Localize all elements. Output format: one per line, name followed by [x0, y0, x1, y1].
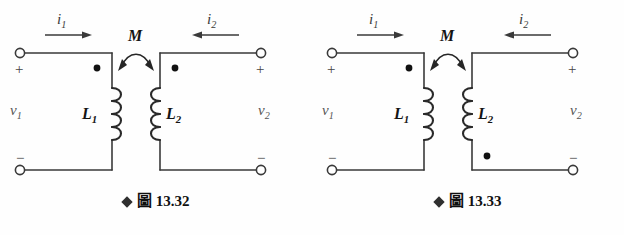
terminal-bottom-left [327, 165, 336, 174]
label-i2: i2 [519, 12, 528, 30]
diamond-bullet-icon [433, 196, 444, 207]
polarity-plus-left: + [15, 62, 23, 77]
current-arrow-i2 [504, 31, 551, 38]
coil-l1 [424, 88, 433, 140]
polarity-minus-right: − [257, 151, 265, 166]
coil-l1 [112, 88, 121, 140]
label-v2: v2 [258, 103, 270, 121]
current-arrow-i1 [45, 31, 92, 38]
coil-l2 [463, 88, 472, 140]
label-v2: v2 [570, 103, 582, 121]
dot-marker-l2 [484, 153, 491, 160]
terminal-top-left [15, 48, 24, 57]
polarity-minus-left: − [16, 151, 24, 166]
current-arrow-i1 [357, 31, 404, 38]
terminal-bottom-right [256, 165, 265, 174]
terminal-top-right [256, 48, 265, 57]
polarity-minus-left: − [328, 151, 336, 166]
label-l2: L2 [478, 106, 493, 125]
dot-marker-l2 [172, 65, 179, 72]
label-m: M [440, 28, 454, 44]
mutual-coupling-arc [430, 54, 466, 71]
figure-caption-13-33: 圖13.33 [312, 189, 624, 210]
polarity-plus-left: + [327, 62, 335, 77]
figure-13-33: i1 i2 M L1 L2 v1 v2 + − + − 圖13.33 [312, 0, 624, 235]
mutual-coupling-arc [118, 54, 154, 71]
polarity-minus-right: − [569, 151, 577, 166]
terminal-top-right [568, 48, 577, 57]
label-l1: L1 [394, 106, 409, 125]
diamond-bullet-icon [121, 196, 132, 207]
dot-marker-l1 [406, 65, 413, 72]
coil-l2 [151, 88, 160, 140]
polarity-plus-right: + [568, 62, 576, 77]
label-m: M [128, 28, 142, 44]
terminal-bottom-left [15, 165, 24, 174]
label-i1: i1 [57, 12, 66, 30]
figure-sheet: i1 i2 M L1 L2 v1 v2 + − + − 圖13.32 [0, 0, 624, 235]
label-v1: v1 [10, 103, 22, 121]
label-l2: L2 [166, 106, 181, 125]
polarity-plus-right: + [256, 62, 264, 77]
figure-13-32: i1 i2 M L1 L2 v1 v2 + − + − 圖13.32 [0, 0, 312, 235]
label-l1: L1 [82, 106, 97, 125]
label-i1: i1 [369, 12, 378, 30]
terminal-bottom-right [568, 165, 577, 174]
label-v1: v1 [322, 103, 334, 121]
dot-marker-l1 [94, 65, 101, 72]
label-i2: i2 [207, 12, 216, 30]
terminal-top-left [327, 48, 336, 57]
current-arrow-i2 [192, 31, 239, 38]
figure-caption-13-32: 圖13.32 [0, 189, 312, 210]
